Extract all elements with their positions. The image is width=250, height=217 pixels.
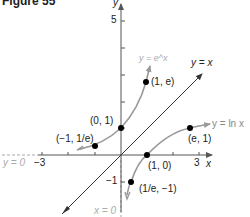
point-0-1 xyxy=(118,125,124,131)
point-label-1-e: (1, e) xyxy=(151,76,174,87)
point-label-neg1-1overe: (−1, 1/e) xyxy=(56,133,94,144)
y-tick-5: 5 xyxy=(111,14,117,25)
y-axis-label: y xyxy=(113,0,118,8)
x-tick-neg3: −3 xyxy=(34,157,45,168)
point-1-e xyxy=(143,79,149,85)
exp-curve-label: y = e^x xyxy=(139,53,168,63)
point-label-1-0: (1, 0) xyxy=(148,160,171,171)
x-tick-3: 3 xyxy=(194,157,200,168)
identity-line xyxy=(62,74,202,214)
graph-canvas xyxy=(0,0,250,217)
point-1-0 xyxy=(144,152,150,158)
x-axis-label: x xyxy=(206,158,211,169)
y-axis xyxy=(121,4,125,212)
x-axis xyxy=(38,152,212,155)
vertical-asymptote-label: x = 0 xyxy=(94,205,116,216)
horizontal-asymptote-label: y = 0 xyxy=(3,157,25,168)
point-1overe-neg1 xyxy=(128,179,134,185)
identity-line-label: y = x xyxy=(191,57,212,68)
ln-curve-label: y = ln x xyxy=(212,118,244,129)
point-label-1overe-neg1: (1/e, −1) xyxy=(139,183,177,194)
point-e-1 xyxy=(187,125,193,131)
figure: Figure 55 xyxy=(0,0,250,217)
point-label-0-1: (0, 1) xyxy=(90,115,113,126)
y-tick-neg1: −1 xyxy=(106,175,117,186)
point-label-e-1: (e, 1) xyxy=(188,133,211,144)
